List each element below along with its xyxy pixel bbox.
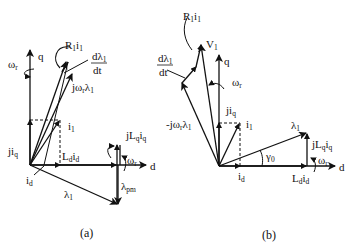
omega-r-label-q-b: ωr (232, 76, 242, 90)
omega-r-arc-q-b (209, 83, 224, 89)
lambda1-label-b: λ1 (291, 119, 300, 133)
omega-r-label-d-a: ωr (127, 154, 137, 168)
lambda1-label-a: λ1 (64, 188, 73, 202)
V1-label-b: V1 (206, 38, 218, 52)
panel-b (167, 18, 335, 172)
gamma0-arc-b (260, 150, 263, 166)
omega-r-arc-d-a (122, 156, 126, 171)
gamma0-label-b: γ0 (265, 150, 275, 164)
dlambda-dt-vector-b (182, 67, 196, 83)
dlambda-dt-den-b: dt (159, 66, 168, 78)
i1-label-a: i1 (68, 120, 75, 134)
id-label-b: id (238, 170, 245, 184)
omega-r-arc-q-a (24, 69, 34, 77)
dlambda-dt-num-a: dλ1 (92, 50, 107, 64)
panel-b-labels: q d R1i1 V1 dλ1 dt -jωrλ1 ωr jiq i1 λ1 j… (157, 10, 345, 242)
lambda1-vector-a (30, 165, 117, 204)
omega-r-label-q-a: ωr (8, 58, 18, 72)
R1i1-vector-b (196, 45, 201, 67)
jLqiq-label-a: jLqiq (125, 129, 147, 143)
R1i1-label-a: R1i1 (65, 39, 83, 53)
lambda-pm-label-a: λpm (121, 180, 136, 194)
caption-a: (a) (80, 226, 93, 240)
dlambda-dt-num-b: dλ1 (158, 52, 173, 66)
jiq-label-a: jiq (7, 145, 18, 159)
jiq-label-b: jiq (225, 104, 236, 118)
panel-a (24, 47, 146, 204)
q-axis-label-b: q (224, 55, 230, 67)
omega-r-arc-d-b (311, 158, 315, 172)
i1-label-b: i1 (246, 118, 253, 132)
Ldid-label-b: Ldid (292, 172, 310, 186)
Ldid-label-a: Ldid (62, 150, 80, 164)
dlambda-dt-den-a: dt (93, 64, 102, 76)
q-axis-label-a: q (38, 50, 44, 62)
jw-lambda-label-a: jωrλ1 (71, 81, 94, 95)
R1i1-label-b: R1i1 (183, 10, 201, 24)
v1-vector-b (201, 45, 219, 166)
phasor-diagrams: q d R1i1 dλ1 dt jωrλ1 ωr i1 jiq Ldid jLq… (0, 0, 358, 251)
d-axis-label-a: d (150, 160, 156, 172)
neg-jw-lambda-label-b: -jωrλ1 (166, 118, 192, 132)
id-label-a: id (26, 174, 33, 188)
caption-b: (b) (262, 228, 276, 242)
jLqiq-label-b: jLqiq (311, 138, 333, 152)
omega-r-label-d-b: ωr (318, 154, 328, 168)
i1-vector-a (30, 121, 59, 165)
d-axis-label-b: d (339, 161, 345, 173)
